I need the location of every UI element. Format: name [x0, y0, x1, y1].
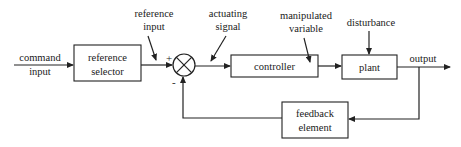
command-input-label-1: command — [19, 52, 61, 63]
feedback-element-label-1: feedback — [296, 108, 335, 119]
disturbance-label: disturbance — [347, 17, 396, 28]
controller-label: controller — [254, 61, 295, 72]
actuating-signal-label-2: signal — [215, 21, 240, 32]
reference-selector-label-2: selector — [91, 66, 124, 77]
manipulated-variable-label-1: manipulated — [280, 10, 333, 21]
output-label: output — [410, 53, 437, 64]
plant-label: plant — [359, 62, 380, 73]
summing-junction — [173, 54, 195, 76]
reference-selector-label-1: reference — [88, 52, 127, 63]
reference-input-pointer — [148, 36, 156, 60]
feedback-return-arrow — [183, 77, 282, 118]
manipulated-variable-label-2: variable — [289, 23, 323, 34]
plus-sign: + — [166, 52, 172, 64]
reference-input-label-2: input — [143, 21, 165, 32]
actuating-signal-pointer — [211, 36, 226, 61]
command-input-label-2: input — [29, 66, 51, 77]
minus-sign: - — [172, 76, 176, 88]
reference-input-label-1: reference — [134, 8, 173, 19]
feedback-element-label-2: element — [298, 122, 331, 133]
actuating-signal-label-1: actuating — [209, 8, 248, 19]
block-diagram: command input reference selector referen… — [0, 0, 461, 147]
